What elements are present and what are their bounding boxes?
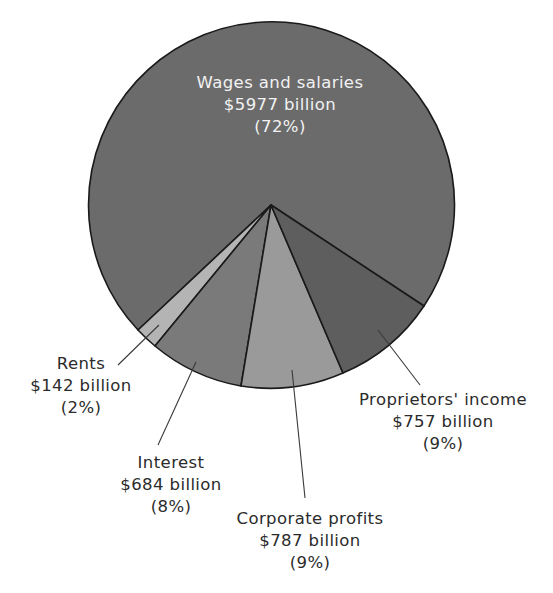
label-rents-value: $142 billion (16, 375, 146, 397)
label-wages-and-salaries: Wages and salaries $5977 billion (72%) (181, 72, 379, 138)
label-wages-value: $5977 billion (181, 94, 379, 116)
label-interest-value: $684 billion (96, 474, 246, 496)
label-wages-pct: (72%) (181, 116, 379, 138)
label-rents: Rents $142 billion (2%) (16, 353, 146, 419)
leader-line-proprietors (378, 330, 420, 385)
label-interest-name: Interest (96, 452, 246, 474)
label-proprietors-income: Proprietors' income $757 billion (9%) (337, 389, 549, 455)
leader-line-interest (158, 362, 196, 445)
label-corporate-profits: Corporate profits $787 billion (9%) (220, 508, 400, 574)
label-corporate-name: Corporate profits (220, 508, 400, 530)
leader-line-corporate (292, 370, 305, 498)
label-corporate-pct: (9%) (220, 552, 400, 574)
label-rents-pct: (2%) (16, 397, 146, 419)
label-wages-name: Wages and salaries (181, 72, 379, 94)
label-corporate-value: $787 billion (220, 530, 400, 552)
label-proprietors-pct: (9%) (337, 433, 549, 455)
label-proprietors-value: $757 billion (337, 411, 549, 433)
label-proprietors-name: Proprietors' income (337, 389, 549, 411)
label-rents-name: Rents (16, 353, 146, 375)
